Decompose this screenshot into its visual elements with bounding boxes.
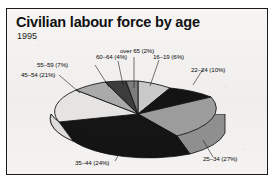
leader-16-19	[150, 60, 159, 86]
label-60-64: 60–64 (4%)	[96, 53, 127, 60]
leader-45-54	[59, 75, 80, 93]
label-16-19: 16–19 (6%)	[153, 53, 184, 60]
label-22-24: 22–24 (10%)	[191, 66, 225, 73]
pie-chart-plot	[7, 9, 268, 175]
label-55-59: 55–59 (7%)	[37, 61, 68, 68]
label-25-34: 25–34 (27%)	[203, 155, 237, 162]
pie-top-face	[55, 81, 217, 140]
label-over-65: over 65 (2%)	[120, 47, 154, 54]
label-35-44: 35–44 (24%)	[75, 159, 109, 166]
chart-figure: Civilian labour force by age 1995	[6, 8, 268, 175]
label-45-54: 45–54 (21%)	[21, 71, 55, 78]
